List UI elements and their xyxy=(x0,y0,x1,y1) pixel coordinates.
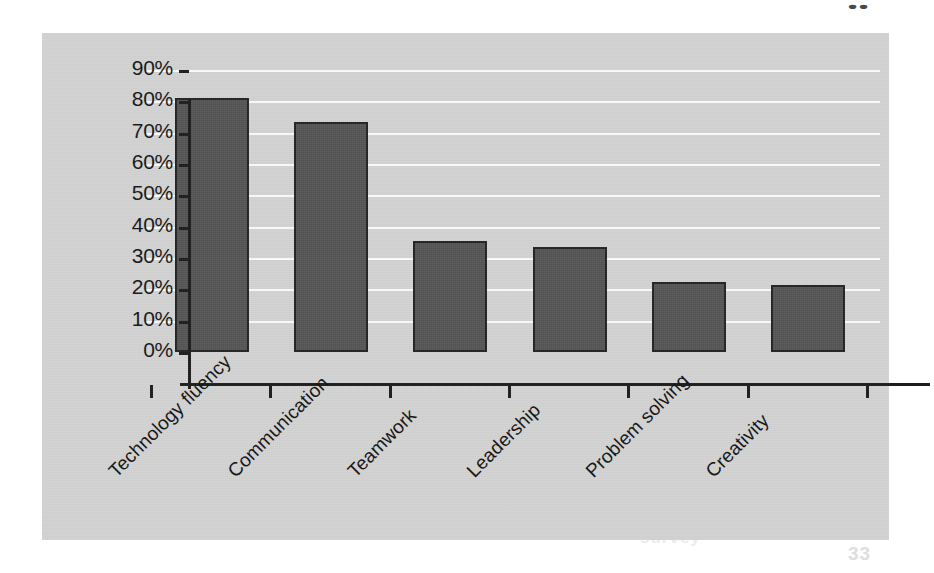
y-axis-tick-label: 0% xyxy=(143,338,173,362)
y-axis-tick xyxy=(179,101,189,104)
gridline xyxy=(146,164,880,166)
x-axis-tick xyxy=(747,385,750,398)
y-axis-tick-label: 80% xyxy=(132,87,173,111)
y-axis-tick-label: 30% xyxy=(132,244,173,268)
x-axis-category-label: Teamwork xyxy=(343,405,420,482)
x-axis-category-label: Creativity xyxy=(701,410,773,482)
y-axis-tick xyxy=(179,352,189,355)
y-axis-tick-label: 10% xyxy=(132,307,173,331)
gridline xyxy=(146,321,880,323)
bar xyxy=(771,285,845,352)
x-axis-line xyxy=(180,383,930,386)
x-axis-category-label: Communication xyxy=(224,372,334,482)
bar-chart-panel: 0%10%20%30%40%50%60%70%80%90% Technology… xyxy=(42,33,889,540)
gridline xyxy=(146,227,880,229)
bar xyxy=(294,122,368,352)
x-axis-category-label: Problem solving xyxy=(582,370,694,482)
gridline xyxy=(146,195,880,197)
bar xyxy=(175,98,249,352)
y-axis-tick xyxy=(179,133,189,136)
bar xyxy=(413,241,487,352)
y-axis-tick-label: 50% xyxy=(132,181,173,205)
gridline xyxy=(146,258,880,260)
x-axis-tick xyxy=(389,385,392,398)
plot-area xyxy=(146,70,880,352)
x-axis-tick xyxy=(866,385,869,398)
gridline xyxy=(146,101,880,103)
gridline xyxy=(146,70,880,72)
y-axis-tick xyxy=(179,321,189,324)
bar xyxy=(533,247,607,352)
y-axis-tick-label: 70% xyxy=(132,119,173,143)
y-axis-tick xyxy=(179,164,189,167)
y-axis-tick-label: 60% xyxy=(132,150,173,174)
scan-artifact-top-right: •• xyxy=(848,0,870,16)
x-axis-tick xyxy=(269,385,272,398)
y-axis-tick-label: 20% xyxy=(132,275,173,299)
y-axis-tick-label: 40% xyxy=(132,213,173,237)
gridline xyxy=(146,133,880,135)
y-axis-tick xyxy=(179,195,189,198)
gridline xyxy=(146,289,880,291)
y-axis-tick xyxy=(179,70,189,73)
y-axis-tick-label: 90% xyxy=(132,56,173,80)
bar xyxy=(652,282,726,353)
y-axis-tick xyxy=(179,227,189,230)
x-axis-category-label: Leadership xyxy=(462,399,545,482)
x-axis-tick xyxy=(150,385,153,398)
y-axis-tick xyxy=(179,289,189,292)
x-axis-tick xyxy=(508,385,511,398)
y-axis-tick xyxy=(179,258,189,261)
x-axis-tick xyxy=(627,385,630,398)
scan-artifact-page-number: 33 xyxy=(848,543,871,565)
y-axis-line xyxy=(188,99,191,389)
